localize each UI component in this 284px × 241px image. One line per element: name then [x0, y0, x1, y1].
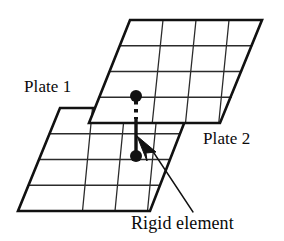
rigid-element-lower-node — [130, 150, 142, 162]
plate-1-label: Plate 1 — [24, 78, 71, 95]
rigid-element-upper-node — [130, 90, 142, 102]
plate-2-label: Plate 2 — [203, 130, 250, 147]
rigid-element-label: Rigid element — [131, 214, 234, 232]
callout-leader-line — [152, 150, 193, 212]
plate-2-group — [89, 20, 262, 123]
plate-assembly-drawing — [0, 0, 284, 241]
figure-canvas: Plate 1 Plate 2 Rigid element — [0, 0, 284, 241]
